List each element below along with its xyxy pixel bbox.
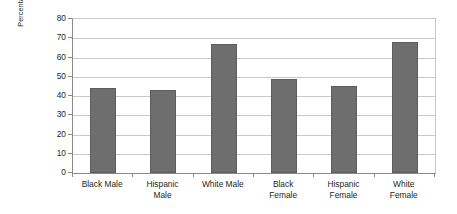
x-axis-category-label: White Male	[193, 179, 253, 190]
y-axis-tick-label: 30	[44, 110, 66, 118]
x-axis-category-label-line: White Male	[193, 179, 253, 190]
x-axis-category-label: WhiteFemale	[374, 179, 434, 200]
x-axis-category-label: HispanicFemale	[313, 179, 373, 200]
x-axis-category-label: Black Male	[72, 179, 132, 190]
y-axis-title: Percentage Included in the Regular Class…	[8, 0, 44, 36]
x-axis-category-label-line: Male	[132, 190, 192, 201]
y-axis-title-line-1: Percentage Included in the Regular Class…	[16, 0, 26, 27]
y-axis-tick-label: 80	[44, 14, 66, 22]
bar[interactable]	[331, 86, 357, 173]
x-axis-category-label-line: Female	[253, 190, 313, 201]
x-axis-tick-mark	[313, 173, 314, 177]
bar-slot	[254, 19, 314, 173]
x-axis-tick-mark	[132, 173, 133, 177]
x-axis-category-label-line: Hispanic	[313, 179, 373, 190]
plot-area	[72, 18, 436, 174]
bar-slot	[375, 19, 435, 173]
bar-slot	[314, 19, 374, 173]
y-axis-tick-label: 70	[44, 33, 66, 41]
y-axis-tick-labels: 80706050403020100	[44, 18, 66, 172]
y-axis-tick-label: 10	[44, 149, 66, 157]
y-axis-tick-label: 0	[44, 168, 66, 176]
x-axis-category-labels: Black MaleHispanicMaleWhite MaleBlackFem…	[72, 179, 434, 211]
x-axis-tick-mark	[253, 173, 254, 177]
x-axis-category-label-line: Black	[253, 179, 313, 190]
bar-chart: Percentage Included in the Regular Class…	[0, 0, 457, 214]
bar[interactable]	[150, 90, 176, 173]
bars-layer	[73, 19, 435, 173]
y-axis-tick-label: 50	[44, 72, 66, 80]
x-axis-category-label: BlackFemale	[253, 179, 313, 200]
bar[interactable]	[211, 44, 237, 173]
x-axis-tick-mark	[193, 173, 194, 177]
x-axis-tick-mark	[434, 173, 435, 177]
bar[interactable]	[271, 79, 297, 173]
x-axis-category-label-line: White	[374, 179, 434, 190]
bar[interactable]	[90, 88, 116, 173]
bar-slot	[133, 19, 193, 173]
x-axis-category-label-line: Hispanic	[132, 179, 192, 190]
bar[interactable]	[392, 42, 418, 173]
y-axis-tick-label: 20	[44, 129, 66, 137]
bar-slot	[194, 19, 254, 173]
x-axis-category-label: HispanicMale	[132, 179, 192, 200]
x-axis-tick-mark	[72, 173, 73, 177]
x-axis-category-label-line: Black Male	[72, 179, 132, 190]
x-axis-category-label-line: Female	[313, 190, 373, 201]
y-axis-tick-label: 60	[44, 52, 66, 60]
x-axis-category-label-line: Female	[374, 190, 434, 201]
x-axis-tick-mark	[374, 173, 375, 177]
x-axis-tick-marks	[72, 173, 435, 177]
y-axis-tick-label: 40	[44, 91, 66, 99]
bar-slot	[73, 19, 133, 173]
